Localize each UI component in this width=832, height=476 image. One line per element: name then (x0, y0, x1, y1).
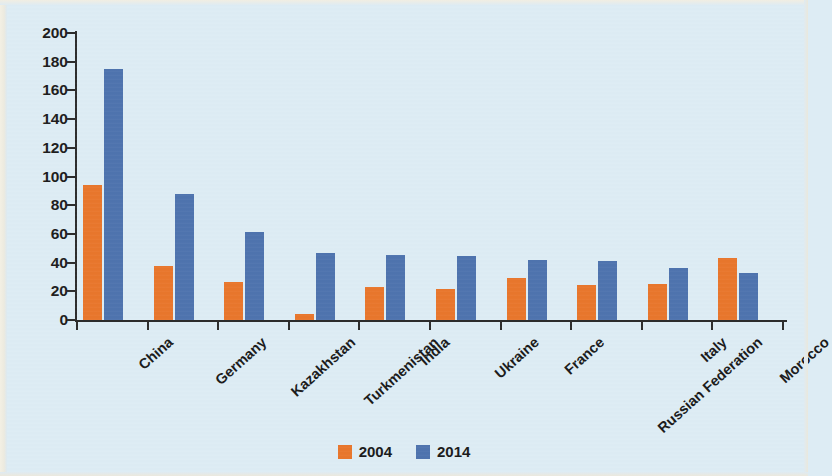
plot-area (76, 33, 782, 320)
bar-2004[interactable] (154, 266, 173, 320)
bar-group (570, 33, 641, 320)
x-axis-tick (288, 320, 290, 330)
bar-2004[interactable] (83, 185, 102, 320)
x-axis-line (75, 320, 787, 322)
bar-2014[interactable] (175, 194, 194, 320)
bar-2014[interactable] (316, 253, 335, 320)
x-axis-category-label: China (136, 334, 177, 373)
y-axis-tick-label: 140 (42, 111, 68, 127)
y-axis-tick-label: 80 (51, 197, 68, 213)
x-axis-tick (500, 320, 502, 330)
y-axis-tick (67, 32, 76, 34)
y-axis-tick-label: 160 (42, 82, 68, 98)
bar-2014[interactable] (457, 256, 476, 320)
y-axis-tick (67, 290, 76, 292)
bar-2004[interactable] (507, 278, 526, 320)
bar-group (500, 33, 571, 320)
chart-legend: 20042014 (0, 444, 808, 459)
legend-item-2014[interactable]: 2014 (416, 444, 470, 459)
bar-2004[interactable] (648, 284, 667, 320)
x-axis-tick (641, 320, 643, 330)
y-axis-tick-labels: 200180160140120100806040200 (20, 33, 68, 320)
bar-2014[interactable] (104, 69, 123, 320)
x-axis-tick (429, 320, 431, 330)
bar-2004[interactable] (577, 285, 596, 320)
bar-2014[interactable] (739, 273, 758, 320)
bar-group (358, 33, 429, 320)
page-edge-top (0, 0, 808, 5)
x-axis-category-label: France (561, 334, 607, 378)
bar-group (641, 33, 712, 320)
bar-2004[interactable] (436, 289, 455, 320)
bar-2014[interactable] (245, 232, 264, 320)
x-axis-tick (217, 320, 219, 330)
legend-swatch (338, 445, 352, 459)
y-axis-tick (67, 176, 76, 178)
bar-2004[interactable] (365, 287, 384, 320)
x-axis-tick (570, 320, 572, 330)
y-axis-tick (67, 89, 76, 91)
y-axis-tick (67, 204, 76, 206)
x-axis-category-label: Germany (212, 334, 269, 388)
page-edge-bottom (0, 472, 808, 476)
bar-2014[interactable] (386, 255, 405, 320)
x-axis-tick (711, 320, 713, 330)
y-axis-tick-label: 200 (42, 25, 68, 41)
y-axis-tick-label: 60 (51, 226, 68, 242)
legend-label: 2004 (359, 444, 392, 459)
y-axis-tick (67, 61, 76, 63)
bar-2014[interactable] (669, 268, 688, 320)
y-axis-tick (67, 262, 76, 264)
y-axis-tick (67, 118, 76, 120)
y-axis-tick (67, 147, 76, 149)
bar-group (711, 33, 782, 320)
bar-group (288, 33, 359, 320)
y-axis-tick-label: 40 (51, 255, 68, 271)
x-axis-category-label: Ukraine (492, 334, 542, 381)
bar-2004[interactable] (224, 282, 243, 320)
bar-group (217, 33, 288, 320)
bar-group (429, 33, 500, 320)
y-axis-tick-label: 120 (42, 140, 68, 156)
page-edge-left (0, 0, 7, 476)
y-axis-tick (67, 233, 76, 235)
x-axis-tick (147, 320, 149, 330)
bar-group (147, 33, 218, 320)
bar-2014[interactable] (598, 261, 617, 320)
bar-2004[interactable] (295, 314, 314, 320)
bar-group (76, 33, 147, 320)
x-axis-tick (782, 320, 784, 330)
x-axis-tick (358, 320, 360, 330)
y-axis-tick-label: 20 (51, 283, 68, 299)
x-axis-tick (76, 320, 78, 330)
x-axis-category-label: Kazakhstan (287, 334, 358, 400)
legend-item-2004[interactable]: 2004 (338, 444, 392, 459)
bar-2004[interactable] (718, 258, 737, 320)
bar-2014[interactable] (528, 260, 547, 320)
y-axis-tick-label: 100 (42, 169, 68, 185)
y-axis-tick-label: 180 (42, 54, 68, 70)
page-edge-right (804, 0, 808, 476)
legend-swatch (416, 445, 430, 459)
x-axis-category-label: India (417, 334, 453, 369)
legend-label: 2014 (437, 444, 470, 459)
y-axis-tick (67, 319, 76, 321)
